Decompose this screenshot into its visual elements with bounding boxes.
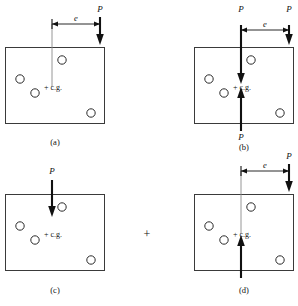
bolt-hole bbox=[205, 75, 213, 83]
dim-arrowhead-left-a bbox=[52, 22, 58, 27]
force-arrowhead-b-eccentric bbox=[285, 34, 293, 45]
bolt-hole bbox=[220, 236, 228, 244]
force-label-P: P bbox=[285, 4, 292, 14]
force-label-P: P bbox=[237, 4, 244, 14]
bolt-hole bbox=[87, 256, 95, 264]
bolt-hole bbox=[276, 109, 284, 117]
panel-caption-c: (c) bbox=[50, 285, 60, 295]
force-label-P: P bbox=[48, 166, 55, 176]
eccentricity-label: e bbox=[263, 160, 267, 170]
force-label-P: P bbox=[285, 151, 292, 161]
centroid-label: + c.g. bbox=[233, 230, 251, 239]
eccentricity-label: e bbox=[74, 13, 78, 23]
eccentric-bolt-group-diagram: e P + c.g. (a) e P bbox=[0, 0, 298, 306]
panel-caption-d: (d) bbox=[239, 285, 249, 295]
bolt-hole bbox=[276, 256, 284, 264]
panel-c: P + c.g. (c) bbox=[6, 166, 105, 295]
panel-caption-a: (a) bbox=[50, 137, 60, 147]
centroid-label: + c.g. bbox=[44, 230, 62, 239]
bolt-hole bbox=[220, 89, 228, 97]
bolt-hole bbox=[205, 222, 213, 230]
centroid-label: + c.g. bbox=[233, 83, 251, 92]
force-label-P: P bbox=[237, 132, 244, 142]
bolt-hole bbox=[31, 89, 39, 97]
eccentricity-label: e bbox=[263, 19, 267, 29]
bolt-hole bbox=[247, 56, 255, 64]
bolt-hole bbox=[87, 109, 95, 117]
bolt-hole bbox=[58, 56, 66, 64]
plus-operator: + bbox=[144, 227, 151, 241]
force-label-P: P bbox=[96, 4, 103, 14]
bolt-hole bbox=[58, 203, 66, 211]
bolt-hole bbox=[247, 203, 255, 211]
panel-b: e P P P + c.g. (b) bbox=[195, 4, 294, 152]
panel-d: e P + c.g. (d) bbox=[195, 151, 294, 295]
bolt-hole bbox=[16, 222, 24, 230]
panel-a: e P + c.g. (a) bbox=[6, 4, 105, 147]
bolt-hole bbox=[31, 236, 39, 244]
bolt-hole bbox=[16, 75, 24, 83]
panel-caption-b: (b) bbox=[239, 142, 249, 152]
dim-arrowhead-left-d bbox=[241, 169, 247, 174]
force-arrowhead-d-down bbox=[285, 181, 293, 192]
figure-container: e P + c.g. (a) e P bbox=[0, 0, 298, 306]
centroid-label: + c.g. bbox=[44, 83, 62, 92]
force-arrowhead-a bbox=[96, 34, 104, 45]
